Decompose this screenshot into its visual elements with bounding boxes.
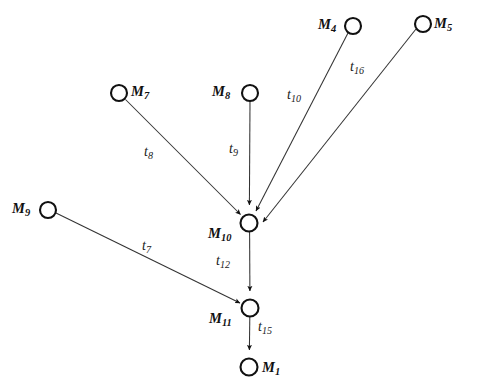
node-M9[interactable] — [40, 202, 56, 218]
node-label-M5: M5 — [434, 16, 452, 33]
node-M11[interactable] — [242, 300, 259, 317]
node-label-M4: M4 — [318, 17, 336, 34]
edge-t8 — [126, 100, 241, 215]
node-label-M9: M9 — [12, 201, 30, 218]
graph-canvas — [0, 0, 477, 388]
edge-label-t16: t16 — [350, 60, 364, 76]
edge-t10 — [256, 33, 348, 211]
edge-label-t10: t10 — [287, 88, 301, 104]
edge-label-t15: t15 — [258, 320, 272, 336]
edge-t9 — [249, 101, 250, 205]
edge-t16 — [263, 29, 416, 222]
node-label-M10: M10 — [208, 226, 231, 243]
node-M1[interactable] — [241, 359, 258, 376]
node-M5[interactable] — [415, 16, 431, 32]
edge-label-t9: t9 — [229, 142, 238, 158]
edge-label-t8: t8 — [144, 145, 153, 161]
edge-label-t7: t7 — [142, 239, 151, 255]
node-label-M7: M7 — [131, 84, 149, 101]
petri-net-diagram: M4 M5 M7 M8 M9 M10 M11 M1 t8 t9 t10 t16 … — [0, 0, 477, 388]
edge-label-t12: t12 — [216, 254, 230, 270]
node-M8[interactable] — [242, 85, 258, 101]
edge-group — [56, 29, 416, 350]
node-group — [40, 16, 431, 376]
node-M4[interactable] — [345, 18, 361, 34]
node-label-M11: M11 — [209, 311, 232, 328]
node-label-M8: M8 — [212, 84, 230, 101]
node-M7[interactable] — [111, 85, 127, 101]
node-label-M1: M1 — [262, 360, 280, 377]
node-M10[interactable] — [241, 215, 258, 232]
